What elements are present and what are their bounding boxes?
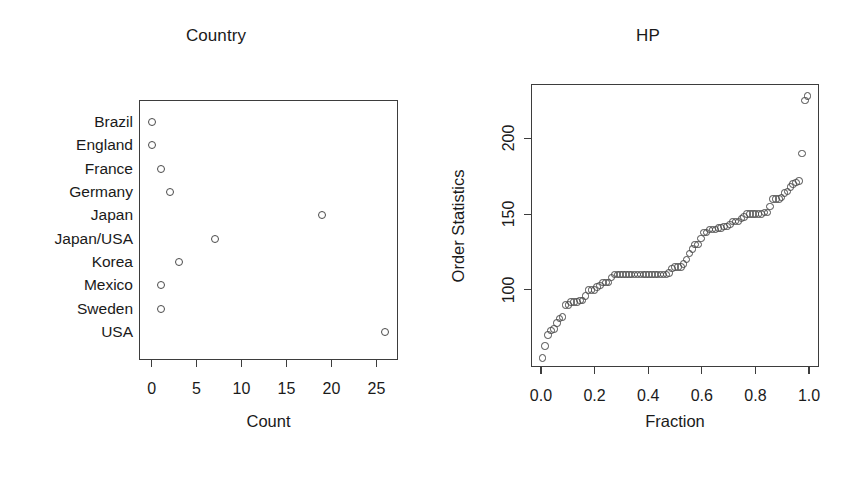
x-tick-label-25: 25 bbox=[368, 380, 386, 398]
x-tick-label-0: 0 bbox=[147, 380, 156, 398]
x-tick-mark-0.0 bbox=[540, 367, 541, 374]
x-tick-label-0.4: 0.4 bbox=[637, 387, 659, 405]
category-label-japan-usa: Japan/USA bbox=[55, 230, 133, 248]
data-point-germany bbox=[166, 188, 174, 196]
category-label-france: France bbox=[85, 160, 133, 178]
data-point-order-stat bbox=[795, 177, 803, 185]
r-plot-figure: Country BrazilEnglandFranceGermanyJapanJ… bbox=[0, 0, 864, 484]
y-tick-mark-200 bbox=[524, 138, 531, 139]
x-tick-mark-0 bbox=[151, 360, 152, 367]
x-tick-mark-20 bbox=[331, 360, 332, 367]
y-axis-title-hp: Order Statistics bbox=[449, 170, 468, 283]
data-point-france bbox=[157, 165, 165, 173]
category-label-brazil: Brazil bbox=[94, 113, 133, 131]
x-tick-label-0.2: 0.2 bbox=[583, 387, 605, 405]
x-tick-label-1.0: 1.0 bbox=[798, 387, 820, 405]
y-tick-label-150: 150 bbox=[500, 201, 518, 228]
x-axis-title-country: Count bbox=[139, 412, 398, 431]
data-point-england bbox=[148, 141, 156, 149]
x-tick-mark-0.8 bbox=[755, 367, 756, 374]
x-axis-title-hp: Fraction bbox=[531, 412, 819, 431]
category-label-england: England bbox=[76, 136, 133, 154]
data-point-order-stat bbox=[559, 313, 567, 321]
y-tick-mark-100 bbox=[524, 289, 531, 290]
x-tick-mark-0.4 bbox=[648, 367, 649, 374]
x-tick-mark-5 bbox=[196, 360, 197, 367]
x-tick-label-0.0: 0.0 bbox=[530, 387, 552, 405]
category-label-japan: Japan bbox=[91, 206, 133, 224]
x-tick-mark-25 bbox=[376, 360, 377, 367]
data-point-mexico bbox=[157, 281, 165, 289]
category-label-mexico: Mexico bbox=[84, 276, 133, 294]
y-tick-label-200: 200 bbox=[500, 125, 518, 152]
category-label-korea: Korea bbox=[92, 253, 133, 271]
plot-area-country bbox=[139, 100, 398, 360]
data-point-japan-usa bbox=[211, 235, 219, 243]
x-tick-mark-0.2 bbox=[594, 367, 595, 374]
data-point-order-stat bbox=[539, 354, 547, 362]
x-tick-label-20: 20 bbox=[323, 380, 341, 398]
data-point-order-stat bbox=[798, 150, 806, 158]
x-tick-label-15: 15 bbox=[278, 380, 296, 398]
x-tick-mark-0.6 bbox=[701, 367, 702, 374]
category-label-germany: Germany bbox=[69, 183, 133, 201]
x-tick-mark-1.0 bbox=[808, 367, 809, 374]
category-label-usa: USA bbox=[101, 323, 133, 341]
x-tick-label-0.8: 0.8 bbox=[744, 387, 766, 405]
category-label-sweden: Sweden bbox=[77, 300, 133, 318]
x-tick-label-0.6: 0.6 bbox=[691, 387, 713, 405]
x-tick-label-5: 5 bbox=[192, 380, 201, 398]
plot-area-hp bbox=[531, 84, 819, 367]
data-point-order-stat bbox=[541, 342, 549, 350]
data-point-sweden bbox=[157, 305, 165, 313]
y-tick-label-100: 100 bbox=[500, 276, 518, 303]
x-tick-mark-15 bbox=[286, 360, 287, 367]
data-point-korea bbox=[175, 258, 183, 266]
y-tick-mark-150 bbox=[524, 214, 531, 215]
data-point-brazil bbox=[148, 118, 156, 126]
x-tick-mark-10 bbox=[241, 360, 242, 367]
panel-country: Country BrazilEnglandFranceGermanyJapanJ… bbox=[0, 0, 432, 484]
panel-title-hp: HP bbox=[432, 26, 864, 46]
x-tick-label-10: 10 bbox=[233, 380, 251, 398]
category-axis-labels-country: BrazilEnglandFranceGermanyJapanJapan/USA… bbox=[0, 0, 133, 484]
